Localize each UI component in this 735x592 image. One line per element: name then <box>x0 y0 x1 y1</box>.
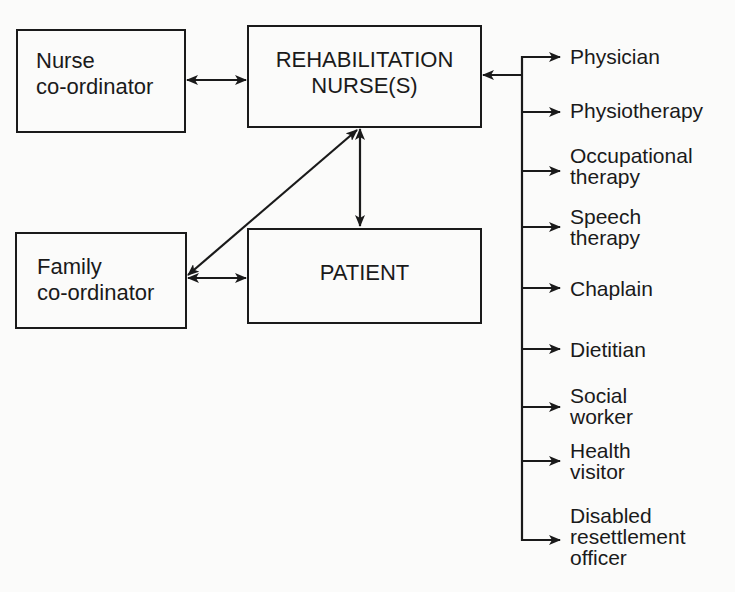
service-occupational-therapy: Occupational therapy <box>570 145 693 187</box>
service-speech-therapy: Speech therapy <box>570 206 641 248</box>
service-health-visitor: Health visitor <box>570 440 631 482</box>
node-label-line2: co-ordinator <box>37 280 154 306</box>
node-patient: PATIENT <box>247 228 482 324</box>
node-family-coordinator: Family co-ordinator <box>15 232 187 329</box>
node-label-line1: Nurse <box>36 48 153 74</box>
service-physiotherapy: Physiotherapy <box>570 100 703 121</box>
node-label-line2: co-ordinator <box>36 74 153 100</box>
service-dietitian: Dietitian <box>570 339 646 360</box>
node-label: PATIENT <box>249 260 480 286</box>
service-physician: Physician <box>570 46 660 67</box>
service-social-worker: Social worker <box>570 385 633 427</box>
node-nurse-coordinator: Nurse co-ordinator <box>16 29 186 133</box>
service-disabled-resettlement-officer: Disabled resettlement officer <box>570 505 686 568</box>
node-rehabilitation-nurse: REHABILITATION NURSE(S) <box>247 25 482 128</box>
node-label-line1: REHABILITATION <box>249 47 480 73</box>
node-label-line1: Family <box>37 254 154 280</box>
service-chaplain: Chaplain <box>570 278 653 299</box>
node-label-line2: NURSE(S) <box>249 73 480 99</box>
